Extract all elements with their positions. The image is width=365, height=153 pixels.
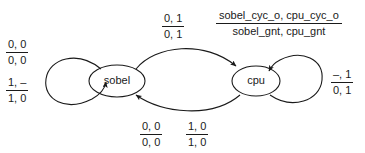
edge-label-denominator: 0, 0 <box>140 135 162 149</box>
edge-label-numerator: 0, 0 <box>6 38 28 53</box>
edge-label-numerator: 1, 0 <box>186 120 208 135</box>
edge-label-cpu-to-sobel-right: 1, 0 1, 0 <box>186 120 208 149</box>
legend-signal-key: sobel_cyc_o, cpu_cyc_o sobel_gnt, cpu_gn… <box>216 9 342 38</box>
edge-label-cpu-to-sobel-left: 0, 0 0, 0 <box>140 120 162 149</box>
edge-sobel-to-cpu <box>136 49 236 69</box>
edge-label-sobel-to-cpu: 0, 1 0, 1 <box>162 12 184 41</box>
edge-label-numerator: 1, – <box>6 76 28 91</box>
legend-denominator: sobel_gnt, cpu_gnt <box>216 24 342 38</box>
edge-label-numerator: 0, 0 <box>140 120 162 135</box>
edge-label-sobel-self-loop-bottom: 1, – 1, 0 <box>6 76 28 105</box>
state-node-sobel-label: sobel <box>89 74 145 86</box>
edge-label-sobel-self-loop-top: 0, 0 0, 0 <box>6 38 28 67</box>
edge-label-denominator: 1, 0 <box>186 135 208 149</box>
legend-numerator: sobel_cyc_o, cpu_cyc_o <box>216 9 342 24</box>
edge-cpu-to-sobel <box>136 95 240 111</box>
edge-label-denominator: 1, 0 <box>6 91 28 105</box>
edge-label-denominator: 0, 0 <box>6 53 28 67</box>
edge-label-numerator: –, 1 <box>331 68 353 83</box>
state-node-cpu-label: cpu <box>232 74 280 86</box>
state-diagram-canvas: sobel cpu sobel_cyc_o, cpu_cyc_o sobel_g… <box>0 0 365 153</box>
edge-label-denominator: 0, 1 <box>162 27 184 41</box>
edge-label-cpu-self-loop: –, 1 0, 1 <box>331 68 353 97</box>
edge-label-denominator: 0, 1 <box>331 83 353 97</box>
edge-label-numerator: 0, 1 <box>162 12 184 27</box>
